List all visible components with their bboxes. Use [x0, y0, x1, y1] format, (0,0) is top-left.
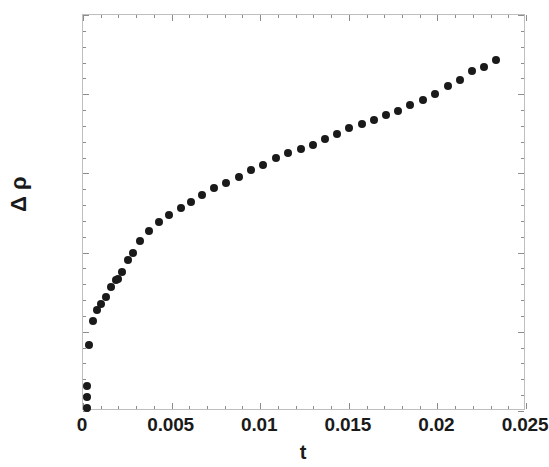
x-axis-top-minor-tick	[367, 15, 368, 18]
data-point	[333, 130, 341, 138]
y-axis-right-minor-tick	[521, 78, 524, 79]
y-axis-major-tick	[83, 332, 89, 333]
x-axis-minor-tick	[455, 406, 456, 409]
y-axis-right-minor-tick	[521, 284, 524, 285]
x-axis-minor-tick	[473, 406, 474, 409]
x-axis-minor-tick	[420, 406, 421, 409]
y-axis-minor-tick	[83, 110, 86, 111]
data-point	[284, 149, 292, 157]
data-point	[83, 393, 91, 401]
data-point	[177, 204, 185, 212]
x-axis-minor-tick	[207, 406, 208, 409]
y-axis-right-minor-tick	[521, 363, 524, 364]
data-point	[102, 293, 110, 301]
x-axis-top-minor-tick	[242, 15, 243, 18]
y-axis-minor-tick	[83, 363, 86, 364]
x-axis-top-minor-tick	[491, 15, 492, 18]
y-axis-right-minor-tick	[521, 395, 524, 396]
data-point	[118, 268, 126, 276]
y-axis-right-minor-tick	[521, 63, 524, 64]
y-axis-major-tick	[83, 253, 89, 254]
y-axis-minor-tick	[83, 284, 86, 285]
x-axis-tick-label: 0.025	[502, 414, 549, 436]
x-axis-top-minor-tick	[384, 15, 385, 18]
y-axis-minor-tick	[83, 268, 86, 269]
y-axis-right-minor-tick	[521, 348, 524, 349]
data-point	[492, 56, 500, 64]
x-axis-tick-label: 0.015	[325, 414, 372, 436]
x-axis-minor-tick	[384, 406, 385, 409]
y-axis-right-minor-tick	[521, 268, 524, 269]
y-axis-minor-tick	[83, 63, 86, 64]
data-point	[406, 101, 414, 109]
y-axis-minor-tick	[83, 205, 86, 206]
data-point	[89, 317, 97, 325]
data-point	[272, 154, 280, 162]
data-point	[235, 173, 243, 181]
data-point	[107, 283, 115, 291]
data-point	[124, 256, 132, 264]
x-axis-minor-tick	[508, 406, 509, 409]
y-axis-major-tick	[83, 173, 89, 174]
data-point	[468, 67, 476, 75]
y-axis-right-major-tick	[518, 173, 524, 174]
y-axis-right-major-tick	[518, 15, 524, 16]
y-axis-right-major-tick	[518, 94, 524, 95]
data-point	[358, 120, 366, 128]
x-axis-tick-label: 0.005	[147, 414, 194, 436]
data-point	[480, 63, 488, 71]
data-point	[321, 135, 329, 143]
x-axis-major-tick	[260, 403, 261, 409]
y-axis-minor-tick	[83, 316, 86, 317]
data-point	[444, 82, 452, 90]
x-axis-minor-tick	[189, 406, 190, 409]
x-axis-minor-tick	[242, 406, 243, 409]
x-axis-minor-tick	[296, 406, 297, 409]
y-axis-right-minor-tick	[521, 31, 524, 32]
y-axis-right-minor-tick	[521, 300, 524, 301]
x-axis-major-tick	[437, 403, 438, 409]
x-axis-minor-tick	[154, 406, 155, 409]
x-axis-tick-label: 0	[77, 414, 87, 436]
data-point	[198, 191, 206, 199]
y-axis-right-minor-tick	[521, 158, 524, 159]
x-axis-major-tick	[526, 403, 527, 409]
x-axis-major-tick	[349, 403, 350, 409]
x-axis-top-minor-tick	[207, 15, 208, 18]
data-point	[222, 179, 230, 187]
data-point	[114, 275, 122, 283]
x-axis-top-minor-tick	[189, 15, 190, 18]
x-axis-top-major-tick	[526, 15, 527, 21]
x-axis-major-tick	[172, 403, 173, 409]
x-axis-title: t	[300, 441, 307, 464]
y-axis-title: Δ ρ	[6, 176, 32, 212]
y-axis-minor-tick	[83, 189, 86, 190]
plot-frame	[82, 14, 525, 410]
x-axis-top-major-tick	[349, 15, 350, 21]
x-axis-top-minor-tick	[225, 15, 226, 18]
data-point	[155, 218, 163, 226]
y-axis-minor-tick	[83, 379, 86, 380]
data-point	[456, 76, 464, 84]
x-axis-minor-tick	[491, 406, 492, 409]
x-axis-tick-label: 0.02	[418, 414, 454, 436]
data-point	[394, 107, 402, 115]
data-point	[85, 341, 93, 349]
data-point	[370, 116, 378, 124]
x-axis-top-minor-tick	[136, 15, 137, 18]
x-axis-top-minor-tick	[118, 15, 119, 18]
scatter-plot-figure: 00.0020.0040.0060.0080.01 Δ ρ 00.0050.01…	[0, 0, 549, 467]
y-axis-right-minor-tick	[521, 379, 524, 380]
data-point	[83, 404, 91, 412]
x-axis-top-major-tick	[172, 15, 173, 21]
y-axis-major-tick	[83, 15, 89, 16]
x-axis-top-major-tick	[437, 15, 438, 21]
x-axis-top-minor-tick	[420, 15, 421, 18]
y-axis-minor-tick	[83, 221, 86, 222]
data-point	[97, 300, 105, 308]
x-axis-top-minor-tick	[313, 15, 314, 18]
x-axis-top-minor-tick	[473, 15, 474, 18]
x-axis-minor-tick	[101, 406, 102, 409]
y-axis-minor-tick	[83, 31, 86, 32]
plot-data-area	[83, 15, 524, 409]
